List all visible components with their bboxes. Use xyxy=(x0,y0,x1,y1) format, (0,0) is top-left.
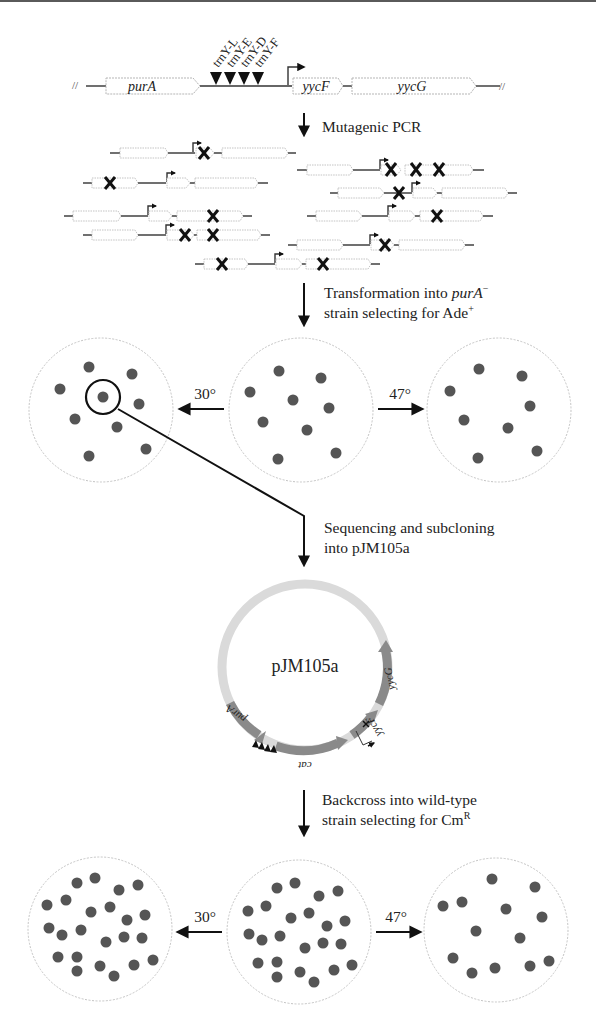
step-label-selection-ade: strain selecting for Ade+ xyxy=(324,303,474,321)
mutant-construct xyxy=(64,206,252,222)
trna-cluster: trnY-L trnY-E trnY-D trnY-F xyxy=(209,34,282,85)
step-label-backcross: Backcross into wild-type xyxy=(322,791,477,808)
mutant-construct xyxy=(307,206,493,222)
mutant-construct xyxy=(297,160,484,176)
break-mark-right: // xyxy=(499,80,506,92)
step-label-subcloning: into pJM105a xyxy=(324,539,410,556)
plate-row-2: 30° 47° xyxy=(28,857,568,1004)
trna-triangle-icon xyxy=(210,72,222,85)
temperature-label-47: 47° xyxy=(385,908,407,925)
mutant-construct xyxy=(110,143,296,159)
mutant-construct xyxy=(288,235,474,251)
top-rule xyxy=(0,0,596,2)
plate-30c-backcross xyxy=(28,857,172,1001)
plate-backcross-library xyxy=(227,860,371,1004)
plate-47c-backcross xyxy=(424,858,568,1002)
trna-triangle-icon xyxy=(252,72,264,85)
mutagenesis-screen-diagram: // purA trnY-L trnY-E trnY-D trnY-F yycF… xyxy=(0,0,596,1029)
temperature-label-30: 30° xyxy=(194,908,216,925)
mutant-construct xyxy=(195,254,380,270)
temperature-label-30: 30° xyxy=(194,385,216,402)
plasmid-name: pJM105a xyxy=(272,656,339,676)
trna-triangle-icon xyxy=(238,72,250,85)
plate-47c xyxy=(427,338,571,482)
gene-label-yycG: yycG xyxy=(396,79,427,94)
mutant-library xyxy=(64,143,517,270)
genomic-locus: // purA trnY-L trnY-E trnY-D trnY-F yycF… xyxy=(72,34,506,94)
gene-label-yycF: yycF xyxy=(300,79,330,94)
trna-triangle-icon xyxy=(224,72,236,85)
break-mark-left: // xyxy=(72,79,79,91)
step-label-mutagenic-pcr: Mutagenic PCR xyxy=(322,118,422,135)
plasmid-segment-cat xyxy=(276,743,338,751)
temperature-label-47: 47° xyxy=(389,385,411,402)
step-label-selection-cm: strain selecting for CmR xyxy=(322,810,471,828)
promoter-arrow-icon xyxy=(368,743,374,746)
step-label-sequencing: Sequencing and subcloning xyxy=(324,519,495,536)
step-label-transformation: Transformation into purA− xyxy=(324,283,489,301)
mutant-construct xyxy=(83,225,270,241)
plasmid-map: pJM105a purA cat yycF yycG xyxy=(222,584,397,772)
plate-row-1: 30° 47° xyxy=(29,338,571,482)
plate-30c xyxy=(29,338,173,482)
mutant-construct xyxy=(83,173,268,189)
plasmid-label-cat: cat xyxy=(297,760,311,772)
mutant-construct xyxy=(330,183,517,199)
gene-label-purA: purA xyxy=(127,79,156,94)
plate-library xyxy=(229,338,373,482)
